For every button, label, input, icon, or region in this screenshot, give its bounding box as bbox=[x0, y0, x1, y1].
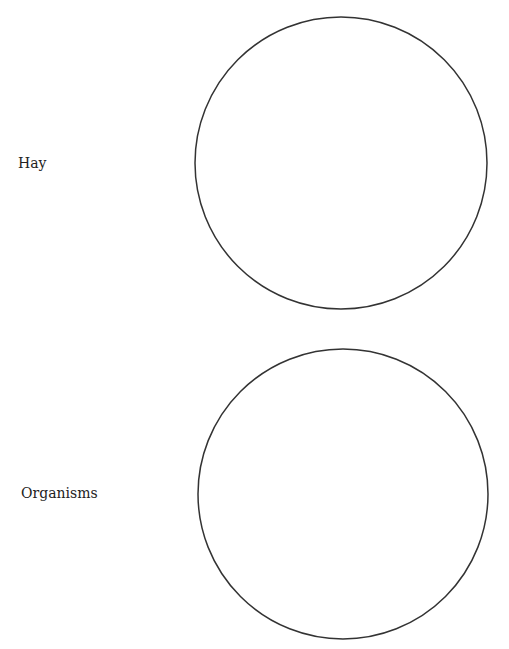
diagram-canvas bbox=[0, 0, 509, 649]
organisms-circle bbox=[198, 349, 488, 639]
hay-circle bbox=[195, 17, 487, 309]
